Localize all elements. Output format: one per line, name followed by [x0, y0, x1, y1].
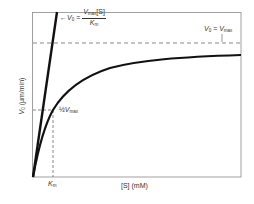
initial-rate-line — [33, 12, 57, 177]
linear-equation-label: ←V0 = Vmax[S]Km — [60, 8, 106, 29]
km-tick-label: Km — [48, 180, 56, 188]
y-axis-label: V0 (µm/min) — [18, 66, 26, 126]
half-vmax-label: ½Vmax — [59, 106, 78, 114]
x-axis-label: [S] (mM) — [121, 182, 148, 189]
vmax-label: V0 = Vmax — [204, 25, 232, 33]
michaelis-menten-curve — [33, 55, 241, 177]
